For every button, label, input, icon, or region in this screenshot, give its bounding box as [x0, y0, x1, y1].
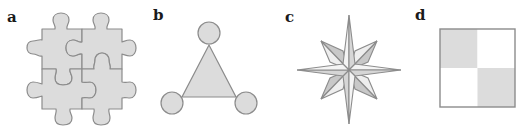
circle-node-bottom-right: [235, 92, 257, 114]
circle-node-bottom-left: [161, 92, 183, 114]
circle-node-top: [198, 22, 220, 44]
star-point-n: [343, 15, 349, 70]
triangle-shape: [182, 45, 236, 97]
figure-canvas: [0, 0, 516, 128]
star-point-s: [343, 70, 349, 124]
checker-cell-bottom-left: [440, 68, 478, 107]
jigsaw-puzzle-icon: [27, 13, 136, 125]
checker-cell-bottom-right: [478, 68, 516, 107]
compass-star-icon: [297, 15, 401, 124]
checker-cell-top-right: [478, 29, 516, 68]
checkerboard-icon: [440, 29, 515, 107]
star-point-w: [297, 70, 349, 76]
star-point-e: [349, 64, 401, 70]
checker-cell-top-left: [440, 29, 478, 68]
triangle-network-icon: [161, 22, 257, 114]
